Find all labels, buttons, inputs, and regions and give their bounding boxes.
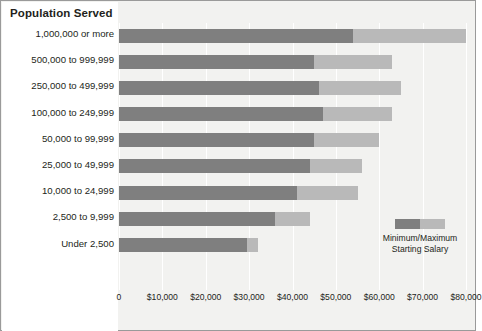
legend-label-line1: Minimum/Maximum [370, 233, 470, 244]
x-axis-tick-label: $20,000 [190, 292, 221, 302]
bar-row: 500,000 to 999,999 [1, 49, 477, 75]
stacked-bar [119, 29, 466, 43]
bar-row: 25,000 to 49,999 [1, 154, 477, 180]
bar-segment-minimum [119, 81, 319, 95]
category-label: Under 2,500 [0, 238, 114, 249]
x-axis: 0$10,000$20,000$30,000$40,000$50,000$60,… [119, 290, 466, 308]
x-axis-tick-label: $70,000 [407, 292, 438, 302]
stacked-bar [119, 133, 466, 147]
x-axis-tick-label: $50,000 [320, 292, 351, 302]
category-label: 100,000 to 249,999 [0, 107, 114, 118]
x-axis-tick-label: $10,000 [147, 292, 178, 302]
bar-segment-minimum [119, 238, 247, 252]
x-axis-tick-label: $40,000 [277, 292, 308, 302]
bar-segment-minimum [119, 159, 310, 173]
bar-row: 100,000 to 249,999 [1, 102, 477, 128]
stacked-bar [119, 159, 466, 173]
legend: Minimum/Maximum Starting Salary [370, 219, 470, 255]
stacked-bar [119, 107, 466, 121]
bar-row: 250,000 to 499,999 [1, 75, 477, 101]
bar-segment-minimum [119, 29, 353, 43]
legend-swatches [370, 219, 470, 229]
minimum-swatch-icon [395, 219, 420, 229]
x-axis-tick-label: $30,000 [234, 292, 265, 302]
category-label: 10,000 to 24,999 [0, 185, 114, 196]
category-label: 1,000,000 or more [0, 28, 114, 39]
bar-segment-minimum [119, 55, 314, 69]
stacked-bar [119, 186, 466, 200]
x-axis-tick-label: $80,000 [450, 292, 481, 302]
category-label: 250,000 to 499,999 [0, 80, 114, 91]
bar-row: 1,000,000 or more [1, 23, 477, 49]
bar-segment-minimum [119, 133, 314, 147]
category-label: 25,000 to 49,999 [0, 159, 114, 170]
stacked-bar [119, 81, 466, 95]
x-axis-tick-label: 0 [117, 292, 122, 302]
x-axis-tick-label: $60,000 [364, 292, 395, 302]
bar-segment-minimum [119, 212, 275, 226]
category-label: 500,000 to 999,999 [0, 54, 114, 65]
category-label: 2,500 to 9,999 [0, 211, 114, 222]
bar-row: 50,000 to 99,999 [1, 128, 477, 154]
bar-segment-minimum [119, 186, 297, 200]
stacked-bar [119, 55, 466, 69]
page-title: Population Served [10, 7, 113, 19]
bar-segment-minimum [119, 107, 323, 121]
category-label: 50,000 to 99,999 [0, 133, 114, 144]
bar-row: 10,000 to 24,999 [1, 180, 477, 206]
legend-label-line2: Starting Salary [370, 244, 470, 255]
maximum-swatch-icon [420, 219, 445, 229]
